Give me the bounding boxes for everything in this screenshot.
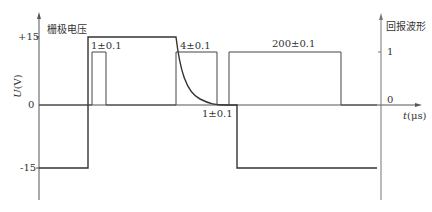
decay-time-label: 4±0.1 (180, 40, 211, 52)
pulse1-width-label: 1±0.1 (91, 40, 122, 52)
gap-label: 1±0.1 (202, 108, 233, 120)
time-axis-arrow-icon (415, 103, 422, 107)
right-axis-arrow-icon (379, 13, 383, 20)
tick-minus15: -15 (20, 162, 36, 174)
left-axis-unit: U(V) (12, 74, 24, 97)
left-axis-title: 栅极电压 (47, 24, 87, 36)
tick-plus15: +15 (18, 31, 39, 43)
tick-zero-right: 0 (387, 94, 393, 106)
tick-one-right: 1 (387, 46, 393, 58)
left-axis-arrow-icon (37, 12, 41, 19)
echo-waveform (39, 52, 377, 105)
tick-zero-left: 0 (28, 99, 34, 111)
grid-voltage-waveform (39, 37, 377, 168)
pulse2-width-label: 200±0.1 (272, 38, 315, 50)
right-axis-title: 回报波形 (386, 21, 426, 33)
waveform-diagram: 栅极电压 +15 0 -15 U(V) 回报波形 1 0 t(μs) 1±0.1… (0, 0, 432, 212)
time-axis-label: t(μs) (403, 110, 426, 122)
